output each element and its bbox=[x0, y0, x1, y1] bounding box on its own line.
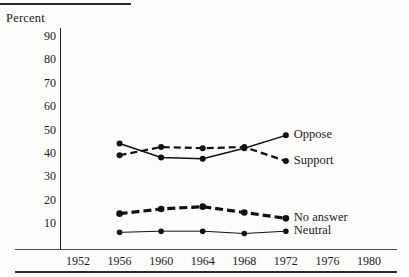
series-line bbox=[120, 231, 286, 233]
series-support bbox=[117, 144, 289, 164]
y-tick-label: 30 bbox=[2, 170, 56, 182]
x-axis-upper-rule bbox=[15, 249, 397, 250]
data-point bbox=[117, 230, 123, 236]
series-label-oppose: Oppose bbox=[294, 128, 332, 141]
y-tick-label: 10 bbox=[2, 217, 56, 229]
y-axis-tick-labels: 908070605040302010 bbox=[0, 0, 56, 277]
chart-figure: Percent 908070605040302010 1952195619601… bbox=[0, 0, 409, 277]
series-label-support: Support bbox=[294, 154, 334, 167]
data-point bbox=[117, 141, 123, 147]
series-neutral bbox=[117, 228, 289, 236]
data-point bbox=[200, 156, 206, 162]
y-tick-label: 60 bbox=[2, 100, 56, 112]
data-point bbox=[241, 144, 247, 150]
data-point bbox=[241, 209, 248, 216]
data-point bbox=[283, 132, 289, 138]
x-tick-label: 1980 bbox=[357, 254, 381, 268]
series-no-answer bbox=[116, 203, 289, 221]
data-point bbox=[158, 155, 164, 161]
y-tick-label: 80 bbox=[2, 53, 56, 65]
y-tick-label: 40 bbox=[2, 147, 56, 159]
x-axis-lower-rule bbox=[15, 271, 397, 273]
y-tick-label: 20 bbox=[2, 194, 56, 206]
series-line bbox=[120, 207, 286, 219]
data-point bbox=[158, 144, 164, 150]
y-tick-label: 70 bbox=[2, 77, 56, 89]
data-point bbox=[241, 145, 247, 151]
data-point bbox=[158, 228, 164, 234]
data-point bbox=[116, 210, 123, 217]
data-point bbox=[241, 231, 247, 237]
data-point bbox=[200, 145, 206, 151]
x-tick-label: 1972 bbox=[274, 254, 298, 268]
series-line bbox=[120, 135, 286, 158]
x-tick-label: 1976 bbox=[315, 254, 339, 268]
x-tick-label: 1952 bbox=[66, 254, 90, 268]
y-axis-line bbox=[60, 28, 61, 250]
y-tick-label: 90 bbox=[2, 30, 56, 42]
data-point bbox=[283, 158, 289, 164]
x-tick-label: 1964 bbox=[191, 254, 215, 268]
series-label-neutral: Neutral bbox=[294, 224, 331, 237]
data-point bbox=[199, 203, 206, 210]
data-point bbox=[283, 228, 289, 234]
data-point bbox=[283, 215, 290, 222]
x-tick-label: 1960 bbox=[149, 254, 173, 268]
y-tick-label: 50 bbox=[2, 124, 56, 136]
series-oppose bbox=[117, 132, 289, 161]
x-tick-label: 1968 bbox=[232, 254, 256, 268]
series-line bbox=[120, 147, 286, 161]
data-point bbox=[200, 228, 206, 234]
x-tick-label: 1956 bbox=[108, 254, 132, 268]
data-point bbox=[158, 206, 165, 213]
data-point bbox=[117, 152, 123, 158]
